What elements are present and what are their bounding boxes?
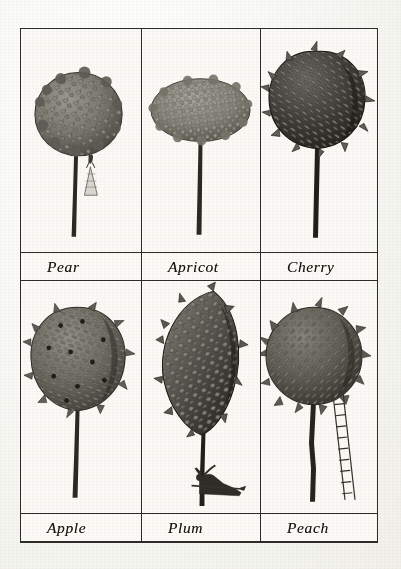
tree-label-cherry: Cherry: [261, 258, 335, 276]
engraving-plate: Pear Apricot Cherry: [20, 28, 378, 543]
apple-trunk: [73, 411, 80, 498]
tree-label-peach: Peach: [261, 519, 329, 537]
tree-cell-cherry[interactable]: [261, 29, 377, 252]
label-cell-plum: Plum: [142, 513, 261, 542]
plate-page: Pear Apricot Cherry: [0, 0, 401, 569]
tree-label-apricot: Apricot: [142, 258, 219, 276]
ladder: [333, 392, 355, 499]
tree-cell-pear[interactable]: [21, 29, 142, 252]
cherry-tree: [261, 29, 377, 252]
human-figure-reclining: [192, 465, 247, 495]
human-figure-standing: [84, 154, 97, 195]
apricot-trunk: [197, 143, 203, 235]
label-row-2: Apple Plum Peach: [21, 513, 377, 542]
apple-tree: [21, 281, 141, 513]
label-row-1: Pear Apricot Cherry: [21, 252, 377, 281]
tree-cell-peach[interactable]: [261, 281, 377, 513]
tree-label-plum: Plum: [142, 519, 203, 537]
label-cell-apple: Apple: [21, 513, 142, 542]
peach-tree: [261, 281, 377, 513]
label-cell-cherry: Cherry: [261, 252, 377, 281]
tree-label-pear: Pear: [21, 258, 80, 276]
pear-tree: [21, 29, 141, 252]
plum-tree: [142, 281, 260, 513]
tree-image-row-2: [21, 281, 377, 513]
tree-cell-apricot[interactable]: [142, 29, 261, 252]
label-cell-apricot: Apricot: [142, 252, 261, 281]
tree-image-row-1: [21, 29, 377, 252]
tree-label-apple: Apple: [21, 519, 86, 537]
peach-trunk: [309, 403, 316, 502]
tree-cell-plum[interactable]: [142, 281, 261, 513]
tree-cell-apple[interactable]: [21, 281, 142, 513]
plum-trunk: [200, 433, 206, 506]
label-cell-pear: Pear: [21, 252, 142, 281]
label-cell-peach: Peach: [261, 513, 377, 542]
apricot-tree: [142, 29, 260, 252]
cherry-trunk: [313, 149, 320, 238]
